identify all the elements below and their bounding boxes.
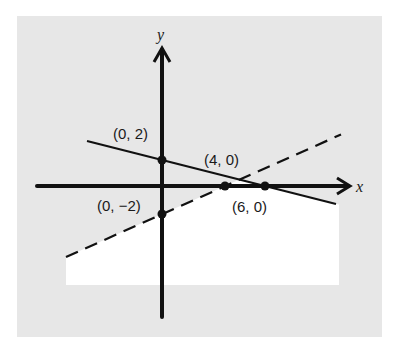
point-0-neg2 — [158, 210, 167, 219]
label-0-2: (0, 2) — [113, 125, 148, 142]
label-4-0: (4, 0) — [204, 151, 239, 168]
y-axis-label: y — [155, 26, 165, 44]
coordinate-plane: y x (0, 2) (4, 0) (6, 0) (0, −2) — [0, 0, 393, 337]
label-0-neg2: (0, −2) — [97, 197, 141, 214]
label-6-0: (6, 0) — [232, 198, 267, 215]
point-6-0 — [261, 182, 270, 191]
point-4-0 — [221, 182, 230, 191]
x-axis-label: x — [355, 178, 363, 195]
background-panel — [17, 16, 382, 337]
point-0-2 — [158, 156, 167, 165]
graph-figure: y x (0, 2) (4, 0) (6, 0) (0, −2) — [0, 0, 393, 337]
